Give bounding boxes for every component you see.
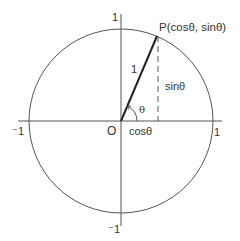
- x-negative-label: ⁻1: [12, 125, 24, 137]
- x-positive-label: 1: [214, 126, 220, 138]
- origin-label: O: [107, 124, 116, 138]
- cos-label: cosθ: [129, 125, 152, 137]
- angle-label: θ: [139, 104, 145, 115]
- y-negative-label: ⁻1: [108, 223, 120, 235]
- point-p-label: P(cosθ, sinθ): [159, 21, 226, 33]
- radius-label: 1: [131, 63, 137, 75]
- angle-arc: [128, 106, 138, 121]
- sin-label: sinθ: [165, 80, 185, 92]
- y-positive-label: 1: [112, 11, 118, 23]
- unit-circle-diagram: P(cosθ, sinθ) O 1 θ cosθ sinθ 1 ⁻1 1 ⁻1: [0, 0, 240, 241]
